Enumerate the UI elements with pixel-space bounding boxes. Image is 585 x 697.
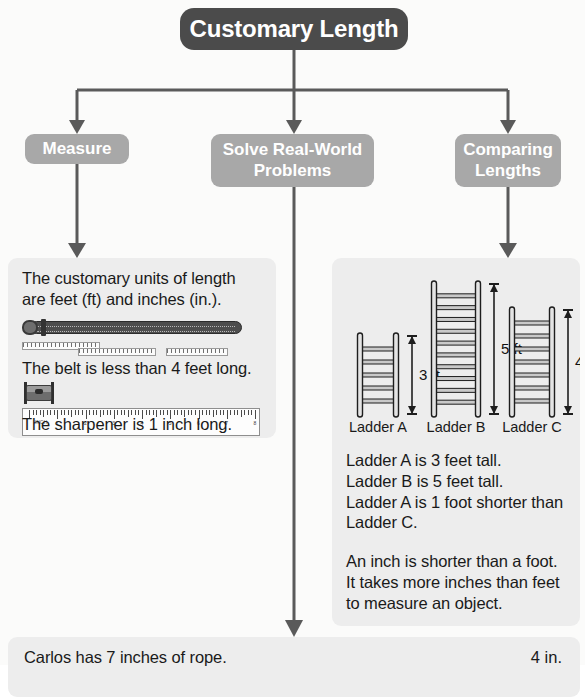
ladder-fact-1: Ladder A is 3 feet tall. xyxy=(346,450,574,471)
inch-note-1: An inch is shorter than a foot. xyxy=(346,551,574,572)
comparing-lengths-content-panel: 3 ftLadder A5 ftLadder B4 ftLadder C Lad… xyxy=(332,258,580,626)
belt-caption-text: The belt is less than 4 feet long. xyxy=(22,358,270,379)
category-label-measure: Measure xyxy=(35,139,120,159)
bottom-problem-panel: Carlos has 7 inches of rope. 4 in. xyxy=(8,637,580,697)
comparing-lengths-text: Ladder A is 3 feet tall. Ladder B is 5 f… xyxy=(346,450,574,613)
measure-content-panel: The customary units of length are feet (… xyxy=(8,258,276,438)
ladder-comparison-chart: 3 ftLadder A5 ftLadder B4 ftLadder C xyxy=(332,262,580,442)
measure-intro-text: The customary units of length are feet (… xyxy=(22,268,262,310)
belt-buckle xyxy=(22,320,38,335)
category-label-solve: Solve Real-WorldProblems xyxy=(215,140,371,180)
inch-note-2: It takes more inches than feet to measur… xyxy=(346,572,574,614)
pencil-sharpener-icon xyxy=(24,382,54,404)
ladder-caption: Ladder A xyxy=(349,419,407,435)
ladder-caption: Ladder B xyxy=(427,419,486,435)
ladder-caption: Ladder C xyxy=(502,419,562,435)
ladder-measure-label: 4 ft xyxy=(575,353,580,370)
page-title: Customary Length xyxy=(190,15,399,43)
belt-keeper xyxy=(41,319,46,336)
sharpener-hole xyxy=(35,389,43,394)
text-spacer xyxy=(346,533,574,551)
diagram-title-box: Customary Length xyxy=(180,8,408,50)
ladder-fact-2: Ladder B is 5 feet tall. xyxy=(346,471,574,492)
ladder-fact-3: Ladder A is 1 foot shorter than Ladder C… xyxy=(346,492,574,534)
belt-icon xyxy=(22,320,246,336)
ladder-c: 4 ftLadder C xyxy=(502,307,580,435)
bottom-problem-text: Carlos has 7 inches of rope. xyxy=(24,648,227,667)
category-box-solve-real-world-problems[interactable]: Solve Real-WorldProblems xyxy=(211,134,374,187)
ladder-b: 5 ftLadder B xyxy=(427,281,523,435)
category-box-measure[interactable]: Measure xyxy=(25,134,129,164)
belt-strap xyxy=(30,321,242,334)
ruler-segment-icon xyxy=(166,348,228,356)
bottom-problem-measure: 4 in. xyxy=(531,648,562,667)
category-box-comparing-lengths[interactable]: ComparingLengths xyxy=(455,134,561,187)
ruler-segment-icon xyxy=(78,348,156,356)
sharpener-caption-text: The sharpener is 1 inch long. xyxy=(22,414,270,435)
category-label-compare: ComparingLengths xyxy=(455,140,561,180)
